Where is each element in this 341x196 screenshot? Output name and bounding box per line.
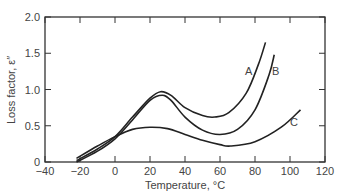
plot-frame bbox=[45, 17, 325, 162]
curve-label-a: A bbox=[245, 65, 253, 77]
x-tick-label: 60 bbox=[214, 165, 226, 177]
x-tick-label: 80 bbox=[249, 165, 261, 177]
y-tick-label: 1.0 bbox=[25, 84, 40, 96]
x-tick-label: 20 bbox=[144, 165, 156, 177]
x-tick-label: −20 bbox=[71, 165, 90, 177]
x-tick-label: 120 bbox=[316, 165, 334, 177]
y-tick-label: 0 bbox=[34, 156, 40, 168]
y-tick-label: 0.5 bbox=[25, 120, 40, 132]
x-tick-label: 40 bbox=[179, 165, 191, 177]
curve-c bbox=[77, 110, 301, 159]
x-tick-label: 0 bbox=[112, 165, 118, 177]
curve-label-c: C bbox=[290, 116, 298, 128]
y-axis-label: Loss factor, ε″ bbox=[5, 56, 17, 124]
curve-label-b: B bbox=[272, 65, 279, 77]
loss-factor-chart: −40−2002040608010012000.51.01.52.0 ABC T… bbox=[0, 0, 341, 196]
x-axis-label: Temperature, °C bbox=[145, 179, 225, 191]
y-tick-label: 2.0 bbox=[25, 11, 40, 23]
y-tick-label: 1.5 bbox=[25, 47, 40, 59]
x-tick-label: 100 bbox=[281, 165, 299, 177]
